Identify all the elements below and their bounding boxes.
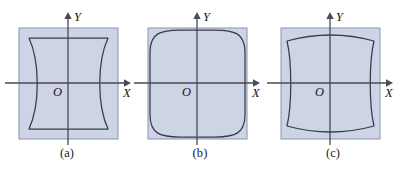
panel-c-x-axis-label: X: [384, 86, 394, 100]
panel-a-plot: Y X O: [0, 0, 134, 150]
figure-container: Y X O (a) Y X O (b): [0, 0, 401, 174]
panel-b-y-axis-label: Y: [203, 10, 212, 24]
panel-a-y-axis-label: Y: [74, 10, 83, 24]
panel-a: Y X O (a): [0, 0, 134, 174]
panel-b: Y X O (b): [133, 0, 267, 174]
panel-a-origin-label: O: [53, 85, 62, 99]
panel-b-x-axis-label: X: [251, 86, 261, 100]
panel-c-y-axis-label: Y: [336, 10, 345, 24]
panel-c-caption: (c): [266, 146, 400, 161]
panel-c-y-axis-arrow-icon: [326, 12, 333, 19]
panel-b-plot: Y X O: [133, 0, 267, 150]
panel-c-plot: Y X O: [266, 0, 400, 150]
panel-b-caption: (b): [133, 146, 267, 161]
panel-a-y-axis-arrow-icon: [64, 12, 71, 19]
panel-a-caption: (a): [0, 146, 134, 161]
panel-a-x-axis-label: X: [122, 86, 132, 100]
panel-c: Y X O (c): [266, 0, 400, 174]
panel-b-y-axis-arrow-icon: [193, 12, 200, 19]
panel-c-origin-label: O: [315, 85, 324, 99]
panel-b-origin-label: O: [182, 85, 191, 99]
